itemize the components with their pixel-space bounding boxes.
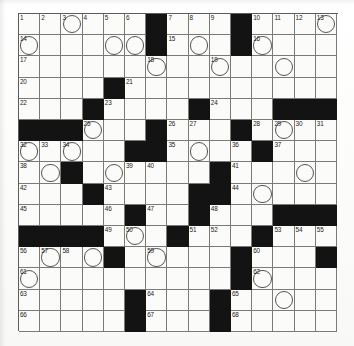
grid-cell[interactable] (40, 99, 61, 120)
grid-cell[interactable] (295, 184, 316, 205)
grid-cell[interactable] (125, 247, 146, 268)
grid-cell[interactable] (316, 162, 337, 183)
grid-cell[interactable] (189, 141, 210, 162)
grid-cell[interactable] (83, 205, 104, 226)
grid-cell[interactable] (83, 141, 104, 162)
grid-cell[interactable] (231, 205, 252, 226)
grid-cell[interactable]: 33 (40, 141, 61, 162)
grid-cell[interactable] (295, 311, 316, 332)
grid-cell[interactable] (252, 290, 273, 311)
grid-cell[interactable]: 46 (104, 205, 125, 226)
grid-cell[interactable]: 11 (273, 14, 294, 35)
grid-cell[interactable] (104, 56, 125, 77)
grid-cell[interactable]: 39 (125, 162, 146, 183)
grid-cell[interactable]: 17 (19, 56, 40, 77)
grid-cell[interactable] (316, 184, 337, 205)
grid-cell[interactable] (125, 120, 146, 141)
grid-cell[interactable] (104, 290, 125, 311)
grid-cell[interactable]: 8 (189, 14, 210, 35)
grid-cell[interactable] (316, 268, 337, 289)
grid-cell[interactable]: 18 (146, 56, 167, 77)
grid-cell[interactable] (167, 184, 188, 205)
grid-cell[interactable] (189, 78, 210, 99)
grid-cell[interactable]: 4 (83, 14, 104, 35)
grid-cell[interactable] (273, 268, 294, 289)
grid-cell[interactable]: 47 (146, 205, 167, 226)
grid-cell[interactable]: 2 (40, 14, 61, 35)
grid-cell[interactable] (40, 268, 61, 289)
grid-cell[interactable] (189, 247, 210, 268)
grid-cell[interactable] (61, 35, 82, 56)
grid-cell[interactable]: 15 (167, 35, 188, 56)
grid-cell[interactable]: 54 (295, 226, 316, 247)
grid-cell[interactable] (146, 99, 167, 120)
grid-cell[interactable] (40, 78, 61, 99)
grid-cell[interactable]: 25 (83, 120, 104, 141)
grid-cell[interactable]: 59 (146, 247, 167, 268)
grid-cell[interactable]: 43 (104, 184, 125, 205)
grid-cell[interactable] (252, 162, 273, 183)
grid-cell[interactable] (210, 268, 231, 289)
grid-cell[interactable] (83, 268, 104, 289)
grid-cell[interactable]: 63 (19, 290, 40, 311)
grid-cell[interactable] (273, 311, 294, 332)
grid-cell[interactable] (61, 78, 82, 99)
grid-cell[interactable]: 23 (104, 99, 125, 120)
grid-cell[interactable] (295, 35, 316, 56)
grid-cell[interactable] (295, 247, 316, 268)
grid-cell[interactable] (104, 35, 125, 56)
grid-cell[interactable]: 34 (61, 141, 82, 162)
grid-cell[interactable]: 20 (19, 78, 40, 99)
grid-cell[interactable]: 55 (316, 226, 337, 247)
grid-cell[interactable] (167, 311, 188, 332)
grid-cell[interactable]: 35 (167, 141, 188, 162)
grid-cell[interactable]: 58 (61, 247, 82, 268)
grid-cell[interactable] (273, 247, 294, 268)
grid-cell[interactable]: 14 (19, 35, 40, 56)
grid-cell[interactable] (316, 311, 337, 332)
grid-cell[interactable]: 36 (231, 141, 252, 162)
grid-cell[interactable] (295, 268, 316, 289)
grid-cell[interactable]: 42 (19, 184, 40, 205)
grid-cell[interactable] (189, 162, 210, 183)
grid-cell[interactable]: 51 (189, 226, 210, 247)
grid-cell[interactable]: 44 (231, 184, 252, 205)
grid-cell[interactable] (40, 162, 61, 183)
grid-cell[interactable] (83, 162, 104, 183)
grid-cell[interactable] (273, 290, 294, 311)
grid-cell[interactable] (167, 290, 188, 311)
grid-cell[interactable]: 3 (61, 14, 82, 35)
grid-cell[interactable] (252, 56, 273, 77)
grid-cell[interactable] (125, 268, 146, 289)
grid-cell[interactable] (104, 268, 125, 289)
grid-cell[interactable] (40, 311, 61, 332)
grid-cell[interactable] (167, 268, 188, 289)
grid-cell[interactable] (231, 99, 252, 120)
grid-cell[interactable]: 7 (167, 14, 188, 35)
grid-cell[interactable] (125, 56, 146, 77)
grid-cell[interactable] (61, 311, 82, 332)
grid-cell[interactable]: 28 (252, 120, 273, 141)
grid-cell[interactable] (210, 35, 231, 56)
grid-cell[interactable]: 45 (19, 205, 40, 226)
grid-cell[interactable] (104, 162, 125, 183)
grid-cell[interactable] (252, 205, 273, 226)
grid-cell[interactable]: 62 (252, 268, 273, 289)
grid-cell[interactable] (252, 99, 273, 120)
grid-cell[interactable]: 27 (189, 120, 210, 141)
grid-cell[interactable] (231, 78, 252, 99)
grid-cell[interactable] (83, 78, 104, 99)
grid-cell[interactable]: 68 (231, 311, 252, 332)
grid-cell[interactable] (316, 56, 337, 77)
grid-cell[interactable] (295, 290, 316, 311)
grid-cell[interactable] (61, 205, 82, 226)
grid-cell[interactable]: 29 (273, 120, 294, 141)
grid-cell[interactable]: 32 (19, 141, 40, 162)
grid-cell[interactable] (146, 226, 167, 247)
grid-cell[interactable] (316, 78, 337, 99)
grid-cell[interactable]: 67 (146, 311, 167, 332)
grid-cell[interactable]: 60 (252, 247, 273, 268)
grid-cell[interactable]: 22 (19, 99, 40, 120)
grid-cell[interactable] (210, 78, 231, 99)
grid-cell[interactable] (83, 56, 104, 77)
